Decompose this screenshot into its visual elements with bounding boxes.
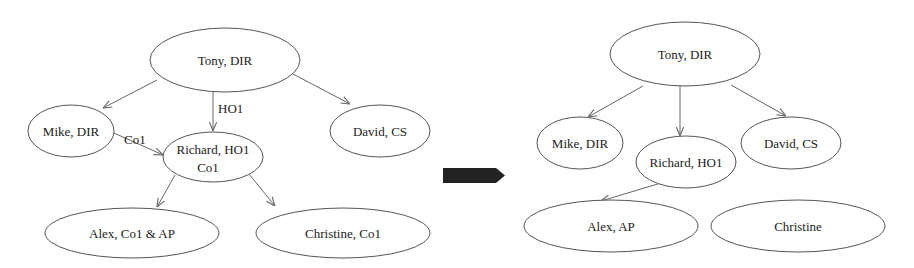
node-label: David, CS	[764, 136, 818, 151]
after-nodes: Tony, DIR Mike, DIR Richard, HO1 David, …	[524, 22, 885, 252]
edge-richard-christine	[249, 174, 275, 206]
node-christine-after: Christine	[711, 200, 885, 252]
node-label: Christine, Co1	[305, 226, 381, 241]
node-tony-after: Tony, DIR	[610, 22, 760, 86]
node-label: Mike, DIR	[43, 124, 100, 139]
node-label: Tony, DIR	[198, 53, 253, 68]
org-chart-transformation: HO1 Co1 Tony, DIR Mike, DIR Richard, HO1…	[0, 0, 914, 268]
node-tony-before: Tony, DIR	[150, 28, 300, 92]
node-label: Alex, Co1 & AP	[89, 226, 175, 241]
edge-tony-mike	[103, 80, 157, 108]
node-richard-after: Richard, HO1	[636, 136, 736, 188]
transition-arrow-icon	[443, 168, 505, 183]
node-label: Richard, HO1	[177, 142, 250, 157]
node-christine-before: Christine, Co1	[256, 208, 430, 258]
node-label: Mike, DIR	[552, 136, 609, 151]
node-label: Tony, DIR	[658, 47, 713, 62]
node-label: David, CS	[353, 124, 407, 139]
node-richard-before: Richard, HO1 Co1	[163, 132, 263, 182]
node-alex-after: Alex, AP	[524, 200, 698, 252]
before-nodes: Tony, DIR Mike, DIR Richard, HO1 Co1 Dav…	[28, 28, 430, 258]
node-mike-after: Mike, DIR	[537, 117, 623, 169]
edge-label-co1: Co1	[124, 132, 146, 147]
edge-tony-david	[293, 74, 350, 104]
node-david-after: David, CS	[741, 117, 841, 169]
edge-richard-alex-after	[601, 183, 661, 201]
node-label-secondary: Co1	[197, 160, 219, 175]
node-david-before: David, CS	[330, 105, 430, 157]
node-alex-before: Alex, Co1 & AP	[45, 208, 219, 258]
node-label: Christine	[774, 219, 822, 234]
edge-label-ho1: HO1	[218, 101, 243, 116]
edge-tony-mike-after	[588, 86, 643, 117]
node-label: Richard, HO1	[650, 155, 723, 170]
node-mike-before: Mike, DIR	[28, 105, 114, 157]
edge-richard-alex	[157, 175, 175, 207]
node-label: Alex, AP	[587, 219, 635, 234]
edge-tony-david-after	[731, 85, 786, 116]
